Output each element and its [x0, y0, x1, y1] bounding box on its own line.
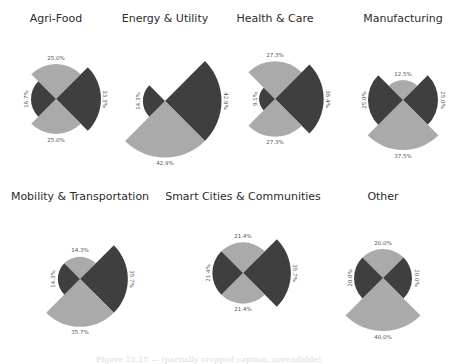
- slice-label: 27.3%: [266, 52, 283, 58]
- slice-label: 35.7%: [292, 264, 298, 281]
- slice-label: 14.3%: [50, 270, 56, 287]
- chart-title: Manufacturing: [363, 12, 443, 25]
- chart-smart-cities-communities: Smart Cities & Communities21.4%35.7%21.4…: [165, 190, 321, 312]
- chart-title: Agri-Food: [30, 12, 82, 25]
- slice-label: 21.4%: [234, 306, 251, 312]
- slice-label: 27.3%: [266, 139, 283, 145]
- chart-title: Energy & Utility: [122, 12, 209, 25]
- slice-label: 16.7%: [23, 90, 29, 107]
- chart-energy-utility: Energy & Utility42.9%42.9%14.3%: [122, 12, 229, 166]
- slice-label: 25.0%: [361, 91, 367, 108]
- chart-title: Smart Cities & Communities: [165, 190, 321, 203]
- chart-manufacturing: Manufacturing12.5%25.0%37.5%25.0%: [361, 12, 446, 159]
- slice-label: 25.0%: [47, 55, 64, 61]
- figure-caption: Figure 15.15 — (partially cropped captio…: [96, 355, 321, 364]
- chart-title: Mobility & Transportation: [11, 190, 149, 203]
- slice-label: 25.0%: [439, 91, 445, 108]
- slice-label: 21.4%: [234, 233, 251, 239]
- chart-mobility-transportation: Mobility & Transportation14.3%35.7%35.7%…: [11, 190, 149, 335]
- figure: Agri-Food25.0%33.3%25.0%16.7%Energy & Ut…: [0, 0, 459, 364]
- chart-health-care: Health & Care27.3%36.4%27.3%9.1%: [236, 12, 331, 145]
- slice-label: 36.4%: [325, 90, 331, 107]
- chart-agri-food: Agri-Food25.0%33.3%25.0%16.7%: [23, 12, 108, 143]
- slice-label: 42.9%: [223, 92, 229, 109]
- slice-label: 20.0%: [347, 269, 353, 286]
- slice-label: 35.7%: [71, 329, 88, 335]
- slice-label: 20.0%: [374, 240, 391, 246]
- slice-label: 33.3%: [102, 90, 108, 107]
- slice-label: 37.5%: [394, 153, 411, 159]
- slice-label: 21.4%: [205, 264, 211, 281]
- slice-label: 12.5%: [394, 71, 411, 77]
- slice-label: 14.3%: [71, 247, 88, 253]
- slice-label: 20.0%: [413, 269, 419, 286]
- chart-other: Other20.0%20.0%40.0%20.0%: [346, 190, 421, 340]
- slice-label: 14.3%: [135, 92, 141, 109]
- slice-label: 42.9%: [156, 160, 173, 166]
- slice-label: 25.0%: [47, 137, 64, 143]
- slice-label: 9.1%: [252, 92, 258, 106]
- slice-label: 40.0%: [374, 334, 391, 340]
- slice-label: 35.7%: [129, 270, 135, 287]
- chart-title: Health & Care: [236, 12, 313, 25]
- chart-title: Other: [367, 190, 399, 203]
